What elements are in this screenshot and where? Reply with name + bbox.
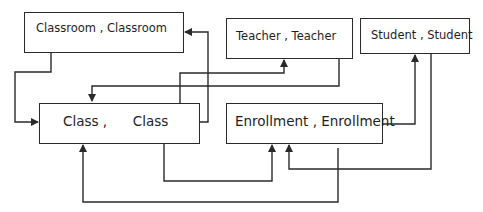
entity-teacher-label: Teacher , Teacher [236, 29, 336, 43]
entity-class-label: Class , Class [63, 113, 168, 129]
connector-teacher-to-class [92, 58, 339, 101]
entity-student: Student , Student [360, 18, 470, 54]
entity-class: Class , Class [39, 103, 200, 144]
entity-classroom: Classroom , Classroom [24, 12, 184, 53]
entity-enrollment: Enrollment , Enrollment [226, 103, 383, 144]
entity-enrollment-label: Enrollment , Enrollment [235, 113, 395, 129]
connector-class-to-enrollment [164, 143, 272, 181]
entity-student-label: Student , Student [371, 28, 473, 42]
connector-enrollment-to-class [83, 145, 338, 202]
er-diagram: Classroom , Classroom Teacher , Teacher … [0, 0, 483, 212]
entity-classroom-label: Classroom , Classroom [36, 21, 167, 35]
connector-class-to-teacher [180, 60, 284, 103]
entity-teacher: Teacher , Teacher [226, 18, 353, 59]
